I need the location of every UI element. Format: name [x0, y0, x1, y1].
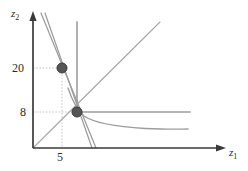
curves-group — [33, 13, 190, 148]
isocost-line-through-upper-point — [41, 13, 96, 148]
data-points-group — [57, 63, 82, 117]
x-tick-label-5: 5 — [57, 151, 63, 163]
y-tick-label-8: 8 — [20, 106, 26, 118]
x-axis-label: z1 — [229, 147, 237, 161]
economics-diagram-figure: z2 z1 20 8 5 — [0, 0, 248, 171]
guide-lines-group — [33, 68, 77, 148]
y-axis-arrowhead — [29, 11, 36, 21]
y-axis-label: z2 — [11, 8, 19, 22]
x-axis-label-subscript: 1 — [233, 152, 237, 161]
upper-equilibrium-point — [57, 63, 67, 73]
axes-group — [29, 11, 226, 152]
lower-equilibrium-point — [72, 107, 82, 117]
x-axis-arrowhead — [216, 144, 226, 151]
plot-canvas — [0, 0, 248, 171]
y-axis-label-subscript: 2 — [15, 13, 19, 22]
y-tick-label-20: 20 — [12, 62, 24, 74]
